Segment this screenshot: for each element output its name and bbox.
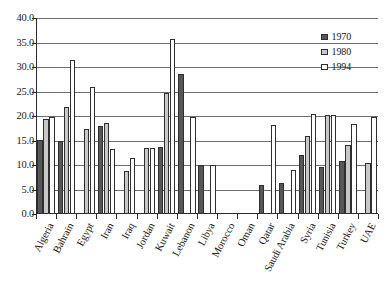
bar — [178, 74, 183, 214]
x-axis-label-slot: Egypt — [76, 219, 96, 293]
bar — [331, 115, 336, 214]
y-axis-tick-label: 35.0 — [0, 38, 34, 48]
bar — [124, 171, 129, 214]
y-axis-tick-label: 10.0 — [0, 160, 34, 170]
bar — [299, 155, 304, 214]
bar — [104, 123, 109, 214]
x-axis-tick-mark — [378, 214, 379, 219]
x-axis-category-label: Egypt — [75, 221, 96, 248]
bar-group — [197, 18, 217, 214]
bar — [319, 167, 324, 214]
bar — [311, 114, 316, 214]
x-axis-label-slot: Oman — [237, 219, 257, 293]
legend-item: 1980 — [321, 46, 379, 58]
bar — [70, 60, 75, 214]
x-axis-category-label: Turkey — [334, 221, 357, 252]
chart-legend: 197019801994 — [321, 31, 379, 76]
bar-group — [96, 18, 116, 214]
bar-group — [117, 18, 137, 214]
bar — [271, 125, 276, 214]
bar — [110, 149, 115, 214]
y-axis-tick-label: 0.0 — [0, 209, 34, 219]
bar-group — [56, 18, 76, 214]
bar — [365, 163, 370, 214]
legend-item: 1970 — [321, 31, 379, 43]
bar — [144, 148, 149, 214]
bar — [339, 161, 344, 214]
bar — [90, 87, 95, 214]
bar — [345, 145, 350, 214]
y-axis-tick-label: 20.0 — [0, 111, 34, 121]
bar-group — [298, 18, 318, 214]
bar — [130, 158, 135, 214]
bar — [198, 165, 203, 214]
x-axis-label-slot: Tunisia — [318, 219, 338, 293]
bar — [279, 183, 284, 214]
bar — [305, 136, 310, 214]
bar — [259, 185, 264, 214]
bar — [371, 117, 376, 214]
legend-swatch-icon — [321, 49, 328, 56]
bar — [49, 117, 54, 215]
bar — [351, 124, 356, 214]
y-axis-tick-label: 30.0 — [0, 62, 34, 72]
x-axis-label-slot: Lebanon — [177, 219, 197, 293]
x-axis-category-label: Iraq — [119, 221, 136, 241]
x-axis-label-slot: Morocco — [217, 219, 237, 293]
x-axis-label-slot: Jordan — [137, 219, 157, 293]
x-axis-category-label: Iran — [99, 221, 116, 241]
bar — [210, 165, 215, 214]
x-axis-category-label: Syria — [297, 221, 317, 245]
x-axis-category-labels: AlgeriaBahrainEgyptIranIraqJordanKuwaitL… — [36, 219, 378, 293]
x-axis-label-slot: Syria — [298, 219, 318, 293]
bar — [325, 115, 330, 214]
x-axis-category-label: Tunisia — [313, 221, 337, 253]
bar-group — [137, 18, 157, 214]
x-axis-category-label: Oman — [235, 221, 257, 248]
bar-group — [36, 18, 56, 214]
y-axis-tick-label: 15.0 — [0, 136, 34, 146]
bar — [291, 170, 296, 214]
bar-group — [76, 18, 96, 214]
bar — [170, 39, 175, 214]
bar — [164, 93, 169, 214]
bar-group — [217, 18, 237, 214]
x-axis-label-slot: Iran — [96, 219, 116, 293]
legend-label: 1994 — [332, 62, 352, 72]
legend-swatch-icon — [321, 64, 328, 71]
bar — [37, 140, 42, 214]
bar — [98, 126, 103, 214]
bar-group — [257, 18, 277, 214]
bar — [64, 107, 69, 214]
x-axis-label-slot: Turkey — [338, 219, 358, 293]
legend-item: 1994 — [321, 61, 379, 73]
bar — [84, 129, 89, 214]
legend-label: 1980 — [332, 47, 352, 57]
bar — [150, 148, 155, 214]
legend-label: 1970 — [332, 32, 352, 42]
x-axis-label-slot: Iraq — [116, 219, 136, 293]
bar — [158, 147, 163, 214]
bar — [58, 141, 63, 214]
x-axis-category-label: Libya — [196, 221, 217, 247]
bar — [43, 119, 48, 214]
x-axis-label-slot: Kuwait — [157, 219, 177, 293]
y-axis-tick-label: 25.0 — [0, 87, 34, 97]
y-axis-tick-label: 40.0 — [0, 13, 34, 23]
y-axis-tick-label: 5.0 — [0, 185, 34, 195]
bar-group — [177, 18, 197, 214]
x-axis-category-label: Qatar — [257, 221, 277, 246]
x-axis-label-slot: Bahrain — [56, 219, 76, 293]
bar-group — [278, 18, 298, 214]
x-axis-category-label: UAE — [358, 221, 378, 245]
bar-chart: 40.035.030.025.020.015.010.05.00.0 Alger… — [0, 0, 386, 293]
legend-swatch-icon — [321, 34, 328, 41]
bar-group — [237, 18, 257, 214]
x-axis-label-slot: Saudi Arabia — [277, 219, 297, 293]
bar — [190, 117, 195, 214]
bar-group — [157, 18, 177, 214]
x-axis-label-slot: UAE — [358, 219, 378, 293]
x-axis-label-slot: Algeria — [36, 219, 56, 293]
